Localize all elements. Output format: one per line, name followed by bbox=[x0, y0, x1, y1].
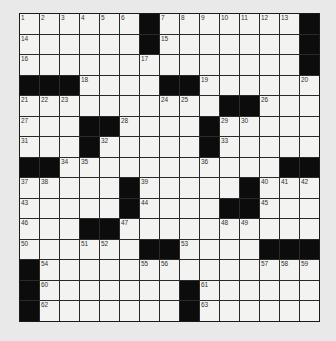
grid-cell[interactable] bbox=[300, 301, 319, 321]
grid-cell[interactable] bbox=[60, 137, 79, 157]
grid-cell[interactable]: 38 bbox=[40, 178, 59, 198]
grid-cell[interactable] bbox=[200, 35, 219, 55]
grid-cell[interactable] bbox=[60, 55, 79, 75]
grid-cell[interactable] bbox=[120, 260, 139, 280]
grid-cell[interactable] bbox=[260, 35, 279, 55]
grid-cell[interactable]: 54 bbox=[40, 260, 59, 280]
grid-cell[interactable] bbox=[80, 35, 99, 55]
grid-cell[interactable]: 37 bbox=[20, 178, 39, 198]
grid-cell[interactable] bbox=[240, 301, 259, 321]
grid-cell[interactable]: 46 bbox=[20, 219, 39, 239]
grid-cell[interactable] bbox=[140, 219, 159, 239]
grid-cell[interactable]: 41 bbox=[280, 178, 299, 198]
grid-cell[interactable] bbox=[180, 178, 199, 198]
grid-cell[interactable] bbox=[60, 219, 79, 239]
grid-cell[interactable] bbox=[60, 260, 79, 280]
grid-cell[interactable] bbox=[240, 240, 259, 260]
grid-cell[interactable] bbox=[200, 178, 219, 198]
grid-cell[interactable] bbox=[200, 199, 219, 219]
grid-cell[interactable]: 15 bbox=[160, 35, 179, 55]
grid-cell[interactable] bbox=[260, 281, 279, 301]
grid-cell[interactable] bbox=[60, 178, 79, 198]
grid-cell[interactable]: 58 bbox=[280, 260, 299, 280]
grid-cell[interactable] bbox=[280, 35, 299, 55]
grid-cell[interactable] bbox=[140, 301, 159, 321]
grid-cell[interactable]: 45 bbox=[260, 199, 279, 219]
grid-cell[interactable]: 17 bbox=[140, 55, 159, 75]
grid-cell[interactable] bbox=[80, 96, 99, 116]
grid-cell[interactable] bbox=[220, 35, 239, 55]
grid-cell[interactable] bbox=[100, 301, 119, 321]
grid-cell[interactable] bbox=[160, 158, 179, 178]
grid-cell[interactable] bbox=[100, 158, 119, 178]
grid-cell[interactable]: 12 bbox=[260, 14, 279, 34]
grid-cell[interactable]: 28 bbox=[120, 117, 139, 137]
grid-cell[interactable] bbox=[120, 301, 139, 321]
grid-cell[interactable] bbox=[100, 260, 119, 280]
grid-cell[interactable] bbox=[140, 158, 159, 178]
grid-cell[interactable] bbox=[160, 301, 179, 321]
grid-cell[interactable] bbox=[280, 96, 299, 116]
grid-cell[interactable] bbox=[160, 55, 179, 75]
grid-cell[interactable] bbox=[60, 301, 79, 321]
grid-cell[interactable]: 47 bbox=[120, 219, 139, 239]
grid-cell[interactable]: 33 bbox=[220, 137, 239, 157]
grid-cell[interactable] bbox=[140, 281, 159, 301]
grid-cell[interactable]: 43 bbox=[20, 199, 39, 219]
grid-cell[interactable]: 52 bbox=[100, 240, 119, 260]
grid-cell[interactable] bbox=[240, 76, 259, 96]
grid-cell[interactable]: 4 bbox=[80, 14, 99, 34]
grid-cell[interactable]: 20 bbox=[300, 76, 319, 96]
grid-cell[interactable] bbox=[240, 158, 259, 178]
grid-cell[interactable] bbox=[220, 55, 239, 75]
grid-cell[interactable]: 24 bbox=[160, 96, 179, 116]
grid-cell[interactable] bbox=[180, 158, 199, 178]
grid-cell[interactable] bbox=[200, 240, 219, 260]
grid-cell[interactable]: 26 bbox=[260, 96, 279, 116]
grid-cell[interactable] bbox=[120, 158, 139, 178]
grid-cell[interactable]: 22 bbox=[40, 96, 59, 116]
grid-cell[interactable] bbox=[260, 117, 279, 137]
grid-cell[interactable] bbox=[100, 281, 119, 301]
grid-cell[interactable]: 16 bbox=[20, 55, 39, 75]
grid-cell[interactable] bbox=[260, 55, 279, 75]
grid-cell[interactable]: 6 bbox=[120, 14, 139, 34]
grid-cell[interactable] bbox=[40, 240, 59, 260]
grid-cell[interactable] bbox=[100, 178, 119, 198]
grid-cell[interactable]: 21 bbox=[20, 96, 39, 116]
grid-cell[interactable] bbox=[80, 260, 99, 280]
grid-cell[interactable] bbox=[160, 281, 179, 301]
grid-cell[interactable] bbox=[240, 137, 259, 157]
grid-cell[interactable] bbox=[260, 137, 279, 157]
grid-cell[interactable]: 11 bbox=[240, 14, 259, 34]
grid-cell[interactable] bbox=[160, 117, 179, 137]
grid-cell[interactable]: 10 bbox=[220, 14, 239, 34]
grid-cell[interactable] bbox=[140, 137, 159, 157]
grid-cell[interactable] bbox=[80, 281, 99, 301]
grid-cell[interactable] bbox=[40, 219, 59, 239]
grid-cell[interactable]: 18 bbox=[80, 76, 99, 96]
grid-cell[interactable] bbox=[280, 117, 299, 137]
grid-cell[interactable]: 53 bbox=[180, 240, 199, 260]
grid-cell[interactable] bbox=[220, 158, 239, 178]
grid-cell[interactable] bbox=[120, 240, 139, 260]
grid-cell[interactable]: 60 bbox=[40, 281, 59, 301]
grid-cell[interactable] bbox=[120, 55, 139, 75]
grid-cell[interactable]: 39 bbox=[140, 178, 159, 198]
grid-cell[interactable] bbox=[60, 117, 79, 137]
grid-cell[interactable] bbox=[180, 55, 199, 75]
grid-cell[interactable]: 23 bbox=[60, 96, 79, 116]
grid-cell[interactable]: 3 bbox=[60, 14, 79, 34]
grid-cell[interactable] bbox=[160, 219, 179, 239]
grid-cell[interactable] bbox=[300, 281, 319, 301]
grid-cell[interactable] bbox=[240, 55, 259, 75]
grid-cell[interactable]: 56 bbox=[160, 260, 179, 280]
grid-cell[interactable]: 49 bbox=[240, 219, 259, 239]
grid-cell[interactable] bbox=[60, 35, 79, 55]
grid-cell[interactable] bbox=[280, 219, 299, 239]
grid-cell[interactable] bbox=[240, 35, 259, 55]
grid-cell[interactable] bbox=[60, 199, 79, 219]
grid-cell[interactable]: 57 bbox=[260, 260, 279, 280]
grid-cell[interactable]: 62 bbox=[40, 301, 59, 321]
grid-cell[interactable] bbox=[160, 178, 179, 198]
